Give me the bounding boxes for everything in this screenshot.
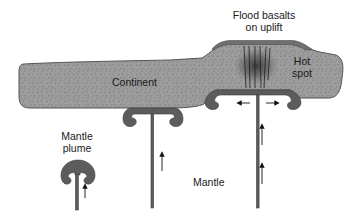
label-flood-basalts-line1: Flood basalts (232, 9, 296, 21)
label-continent: Continent (112, 76, 157, 88)
label-hot-spot-line1: Hot (290, 55, 314, 67)
label-mantle-plume-line2: plume (58, 142, 96, 154)
label-mantle: Mantle (193, 176, 225, 188)
hot-spot-zone (234, 48, 278, 84)
plume-impinging (123, 108, 183, 208)
plume-spreading (205, 90, 301, 208)
label-mantle-plume-line1: Mantle (58, 130, 96, 142)
label-hot-spot-line2: spot (290, 67, 314, 79)
label-flood-basalts: Flood basalts on uplift (232, 9, 296, 33)
upward-arrows (85, 126, 262, 198)
label-mantle-plume: Mantle plume (58, 130, 96, 154)
label-flood-basalts-line2: on uplift (232, 21, 296, 33)
diagram-canvas (0, 0, 362, 224)
plume-young (61, 160, 95, 210)
label-hot-spot: Hot spot (290, 55, 314, 79)
